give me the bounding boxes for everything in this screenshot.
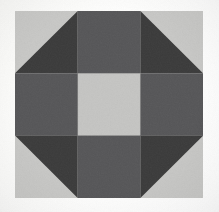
- image-canvas: [0, 0, 219, 212]
- quilt-block: [15, 11, 203, 198]
- quilt-block-svg: [15, 11, 203, 198]
- block-grain: [15, 11, 203, 198]
